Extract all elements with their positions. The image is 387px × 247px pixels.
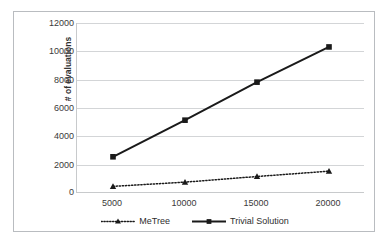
chart-legend: MeTree Trivial Solution (14, 216, 376, 226)
legend-label-trivial-solution: Trivial Solution (230, 216, 289, 226)
y-axis-tick-label: 12000 (30, 19, 74, 28)
x-axis-tick-label: 5000 (82, 198, 142, 208)
data-point-marker (110, 183, 116, 189)
chart-container: # of evaluations 12000 10000 8000 6000 4… (13, 11, 375, 232)
legend-item-trivial-solution[interactable]: Trivial Solution (192, 216, 289, 226)
triangle-marker-icon (101, 217, 135, 226)
plot-area (76, 23, 364, 193)
y-axis-tick-label: 0 (30, 188, 74, 197)
y-axis-tick-label: 4000 (30, 132, 74, 141)
legend-label-metree: MeTree (139, 216, 170, 226)
y-axis-tick-label: 6000 (30, 104, 74, 113)
x-axis-tick-label: 15000 (226, 198, 286, 208)
series-trivial-solution (110, 44, 332, 159)
data-point-marker (182, 117, 188, 123)
legend-item-metree[interactable]: MeTree (101, 216, 170, 226)
series-metree (110, 168, 332, 189)
y-axis-tick-label: 8000 (30, 76, 74, 85)
y-axis-tick-labels: 12000 10000 8000 6000 4000 2000 0 (30, 17, 74, 188)
x-axis-tick-labels: 5000 10000 15000 20000 (76, 198, 364, 212)
data-point-marker (326, 44, 332, 50)
series-plot (77, 23, 365, 193)
x-axis-tick-label: 10000 (154, 198, 214, 208)
square-marker-icon (192, 217, 226, 226)
y-axis-tick-label: 2000 (30, 161, 74, 170)
y-axis-tick-label: 10000 (30, 47, 74, 56)
data-point-marker (110, 154, 116, 160)
data-point-marker (254, 79, 260, 85)
x-axis-tick-label: 20000 (298, 198, 358, 208)
